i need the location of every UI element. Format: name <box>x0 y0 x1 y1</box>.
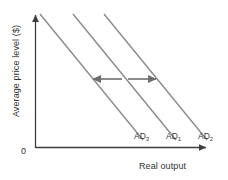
curve-label-ad1-text: AD <box>166 131 178 141</box>
x-axis-title: Real output <box>139 161 186 171</box>
curve-ad2 <box>104 14 207 140</box>
curve-label-ad2: AD2 <box>198 131 213 141</box>
curve-label-ad1: AD1 <box>166 131 181 141</box>
origin-label: 0 <box>21 146 26 156</box>
y-axis-title: Average price level ($) <box>11 11 21 131</box>
curve-label-ad3-subscript: 3 <box>146 136 149 142</box>
curve-label-ad3: AD3 <box>134 131 149 141</box>
curve-label-ad3-text: AD <box>134 131 146 141</box>
curve-ad3 <box>40 14 143 140</box>
curve-label-ad2-text: AD <box>198 131 210 141</box>
curve-label-ad2-subscript: 2 <box>210 136 213 142</box>
ad-shift-diagram: Average price level ($) Real output 0 AD… <box>0 0 228 180</box>
curve-ad1 <box>73 14 176 140</box>
curve-label-ad1-subscript: 1 <box>178 136 181 142</box>
plot-area <box>0 0 228 180</box>
